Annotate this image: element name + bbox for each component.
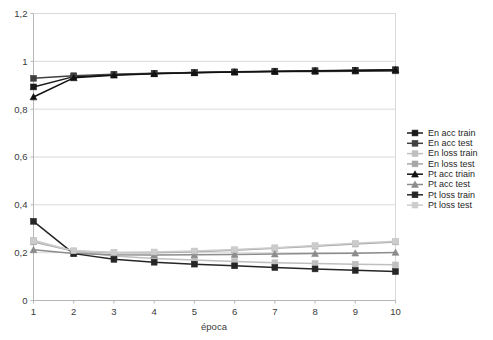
x-tick-label: 3 xyxy=(111,306,116,317)
x-tick-label: 10 xyxy=(390,306,401,317)
series-marker xyxy=(191,261,197,267)
x-tick-label: 1 xyxy=(31,306,36,317)
series-marker xyxy=(31,75,37,81)
y-tick-label: 0,4 xyxy=(14,199,27,210)
legend-marker xyxy=(412,161,418,167)
series-marker xyxy=(272,245,278,251)
y-tick-label: 1,2 xyxy=(14,8,27,19)
legend-marker xyxy=(412,130,418,136)
y-tick-label: 1 xyxy=(22,56,27,67)
x-tick-label: 2 xyxy=(71,306,76,317)
legend-label: Pt loss test xyxy=(428,200,473,210)
legend-marker xyxy=(412,151,418,157)
legend-label: Pt acc test xyxy=(428,179,471,189)
legend-marker xyxy=(412,192,418,198)
x-tick-label: 6 xyxy=(232,306,237,317)
chart-background xyxy=(0,0,493,340)
series-marker xyxy=(31,238,37,244)
series-marker xyxy=(232,247,238,253)
legend-marker xyxy=(412,140,418,146)
series-marker xyxy=(312,266,318,272)
x-tick-label: 5 xyxy=(192,306,197,317)
legend-label: En loss train xyxy=(428,148,478,158)
legend-marker xyxy=(412,202,418,208)
series-marker xyxy=(312,261,318,267)
x-tick-label: 9 xyxy=(353,306,358,317)
y-tick-label: 0,6 xyxy=(14,151,27,162)
series-marker xyxy=(111,249,117,255)
series-marker xyxy=(352,261,358,267)
series-marker xyxy=(151,259,157,265)
line-chart: 00,20,40,60,811,2 12345678910 época En a… xyxy=(0,0,493,340)
x-axis-title: época xyxy=(201,321,228,332)
chart-container: 00,20,40,60,811,2 12345678910 época En a… xyxy=(0,0,493,340)
legend-label: Pt acc triain xyxy=(428,169,475,179)
y-tick-label: 0 xyxy=(22,295,27,306)
y-tick-label: 0,2 xyxy=(14,247,27,258)
legend-label: En acc train xyxy=(428,128,476,138)
series-marker xyxy=(31,84,37,90)
series-marker xyxy=(191,248,197,254)
legend-label: En acc test xyxy=(428,138,473,148)
series-marker xyxy=(151,249,157,255)
series-marker xyxy=(111,256,117,262)
series-marker xyxy=(71,248,77,254)
legend-label: En loss test xyxy=(428,159,475,169)
series-marker xyxy=(31,218,37,224)
series-marker xyxy=(312,243,318,249)
series-marker xyxy=(393,262,399,268)
legend-label: Pt loss train xyxy=(428,190,475,200)
series-marker xyxy=(393,269,399,275)
series-marker xyxy=(352,240,358,246)
series-marker xyxy=(352,267,358,273)
series-marker xyxy=(272,265,278,271)
x-tick-label: 7 xyxy=(272,306,277,317)
x-tick-label: 4 xyxy=(152,306,157,317)
series-marker xyxy=(393,238,399,244)
y-tick-label: 0,8 xyxy=(14,104,27,115)
series-marker xyxy=(232,263,238,269)
x-tick-label: 8 xyxy=(312,306,317,317)
